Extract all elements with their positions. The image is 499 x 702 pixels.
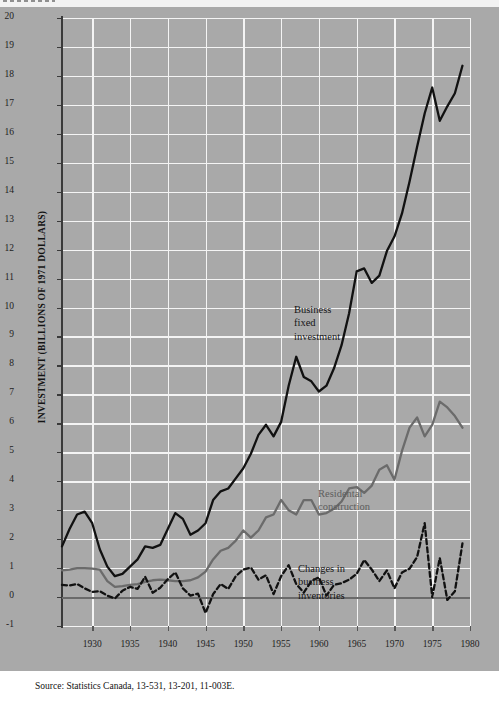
y-tick-label: 12 bbox=[0, 243, 14, 253]
x-tick-mark bbox=[281, 626, 282, 631]
x-tick-mark bbox=[243, 626, 244, 631]
cut-off-header-strip bbox=[0, 0, 499, 7]
y-tick-label: 7 bbox=[0, 387, 14, 397]
bfi-line-2: fixed bbox=[294, 316, 340, 329]
y-tick-label: 4 bbox=[0, 474, 14, 484]
rc-line-1: Residental bbox=[318, 487, 370, 500]
x-tick-label: 1980 bbox=[447, 639, 493, 649]
x-tick-mark bbox=[206, 626, 207, 631]
business-fixed-investment-label: Business fixed investment bbox=[294, 303, 340, 343]
y-tick-label: 11 bbox=[0, 272, 14, 282]
y-tick-label: 19 bbox=[0, 40, 14, 50]
y-tick-label: 15 bbox=[0, 156, 14, 166]
plot-area: -101234567891011121314151617181920 19301… bbox=[62, 18, 470, 626]
x-tick-mark bbox=[432, 626, 433, 631]
cut-off-header-text bbox=[3, 0, 55, 2]
y-tick-label: 17 bbox=[0, 98, 14, 108]
y-tick-label: 14 bbox=[0, 185, 14, 195]
x-tick-mark bbox=[130, 626, 131, 631]
changes-in-business-inventories-label: Changes in business inventories bbox=[298, 562, 345, 602]
source-note: Source: Statistics Canada, 13-531, 13-20… bbox=[35, 681, 234, 691]
gridline-v bbox=[470, 18, 471, 626]
bfi-line-1: Business bbox=[294, 303, 340, 316]
y-tick-label: -1 bbox=[0, 619, 14, 629]
cbi-line-2: business bbox=[298, 575, 345, 588]
y-axis-title: INVESTMENT (BILLIONS OF 1971 DOLLARS) bbox=[37, 187, 47, 447]
series-changes-in-business-inventories bbox=[62, 523, 462, 613]
y-tick-label: 20 bbox=[0, 11, 14, 21]
gridline-h bbox=[62, 626, 470, 627]
cbi-line-3: inventories bbox=[298, 589, 345, 602]
x-tick-mark bbox=[92, 626, 93, 631]
y-tick-label: 9 bbox=[0, 329, 14, 339]
residential-construction-label: Residental construction bbox=[318, 487, 370, 514]
rc-line-2: construction bbox=[318, 500, 370, 513]
y-tick-label: 5 bbox=[0, 445, 14, 455]
y-tick-label: 3 bbox=[0, 503, 14, 513]
y-tick-label: 0 bbox=[0, 590, 14, 600]
x-tick-mark bbox=[357, 626, 358, 631]
y-tick-label: 1 bbox=[0, 561, 14, 571]
x-tick-mark bbox=[168, 626, 169, 631]
y-tick-mark bbox=[57, 626, 62, 627]
y-tick-label: 16 bbox=[0, 127, 14, 137]
y-tick-label: 6 bbox=[0, 416, 14, 426]
series-business-fixed-investment bbox=[62, 66, 462, 576]
chart-page: INVESTMENT (BILLIONS OF 1971 DOLLARS) -1… bbox=[0, 0, 499, 702]
y-tick-label: 13 bbox=[0, 214, 14, 224]
y-tick-label: 2 bbox=[0, 532, 14, 542]
x-tick-mark bbox=[319, 626, 320, 631]
bfi-line-3: investment bbox=[294, 330, 340, 343]
y-tick-label: 18 bbox=[0, 69, 14, 79]
x-tick-mark bbox=[470, 626, 471, 631]
x-tick-mark bbox=[394, 626, 395, 631]
y-tick-label: 8 bbox=[0, 358, 14, 368]
cbi-line-1: Changes in bbox=[298, 562, 345, 575]
series-lines bbox=[62, 18, 470, 626]
y-tick-label: 10 bbox=[0, 301, 14, 311]
